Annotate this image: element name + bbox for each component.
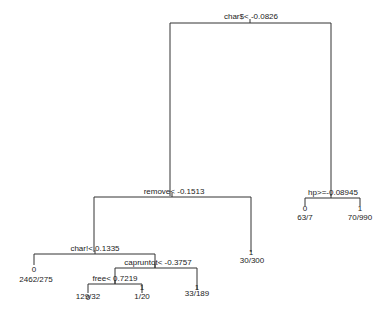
leaf-counts-70: 70/990 bbox=[348, 213, 373, 222]
leaf-class-70: 1 bbox=[358, 204, 363, 213]
leaf-counts-33: 33/189 bbox=[185, 289, 210, 298]
leaf-counts-63: 63/7 bbox=[297, 213, 313, 222]
decision-tree: char$< -0.0826 remove< -0.1513 hp>=-0.08… bbox=[0, 0, 391, 319]
root-split-label: char$< -0.0826 bbox=[224, 12, 279, 21]
leaf-class-63: 0 bbox=[303, 204, 308, 213]
charx-split-label: char!< 0.1335 bbox=[70, 244, 120, 253]
hp-branch bbox=[305, 198, 360, 206]
hp-split-label: hp>=-0.08945 bbox=[308, 188, 358, 197]
leaf-counts-1-20: 1/20 bbox=[134, 292, 150, 301]
remove-split-label: remove< -0.1513 bbox=[144, 187, 205, 196]
free-split-label: free< 0.7219 bbox=[92, 274, 138, 283]
leaf-counts-129: 129/32 bbox=[76, 292, 101, 301]
leaf-counts: 2462/275 bbox=[19, 275, 53, 284]
root-branch bbox=[170, 23, 331, 196]
leaf-class-1-20: 1 bbox=[140, 283, 145, 292]
leaf-counts-30: 30/300 bbox=[240, 256, 265, 265]
capruntot-split-label: capruntot< -0.3757 bbox=[124, 258, 192, 267]
leaf-class: 0 bbox=[32, 265, 37, 274]
